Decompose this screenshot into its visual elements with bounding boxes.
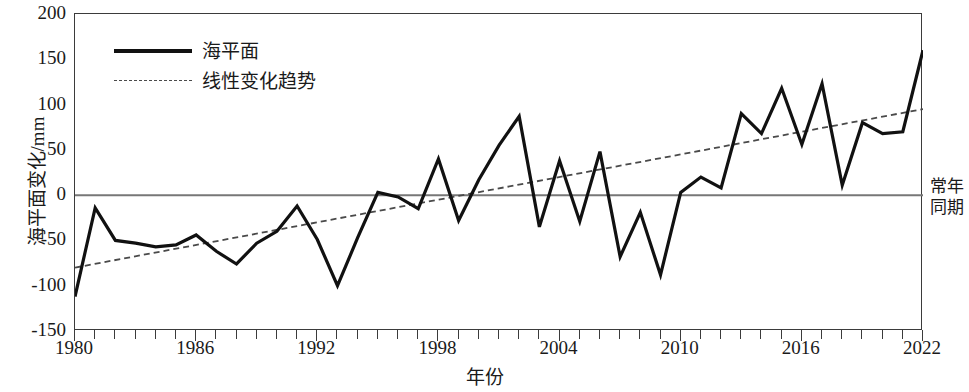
y-tick-label: -100 [8,275,66,294]
legend-item-sea-level: 海平面 [114,36,316,66]
solid-line-swatch-icon [114,44,192,58]
x-tick-label: 1980 [34,337,114,359]
legend: 海平面 线性变化趋势 [114,36,316,96]
x-tick-mark-minor [599,330,600,339]
x-tick-mark-minor [357,330,358,339]
x-tick-label: 1986 [155,337,235,359]
x-tick-label: 1992 [276,337,356,359]
y-tick-label: 0 [8,184,66,203]
legend-label-trend: 线性变化趋势 [202,72,316,91]
x-tick-mark-minor [135,330,136,339]
x-tick-mark-minor [236,330,237,339]
chart-container: 海平面变化/mm 年份 200150100500-50-100-150 1980… [0,0,969,392]
x-tick-label: 1998 [397,337,477,359]
x-tick-mark-minor [841,330,842,339]
x-tick-mark-minor [114,330,115,339]
trend-line [75,109,923,268]
y-tick-label: 100 [8,94,66,113]
legend-label-sea-level: 海平面 [202,42,259,61]
annotation-line-2: 同期 [930,197,964,218]
y-tick-label: 50 [8,139,66,158]
y-tick-label: 200 [8,3,66,22]
x-tick-label: 2004 [519,337,599,359]
y-tick-label: 150 [8,48,66,67]
dashed-line-swatch-icon [114,74,192,88]
x-tick-label: 2022 [882,337,962,359]
normal-period-annotation: 常年 同期 [930,176,964,218]
x-tick-mark-minor [256,330,257,339]
legend-item-trend: 线性变化趋势 [114,66,316,96]
x-axis-title: 年份 [0,362,969,389]
x-tick-mark-minor [498,330,499,339]
x-tick-mark-minor [861,330,862,339]
y-tick-label: -50 [8,229,66,248]
x-tick-mark-minor [720,330,721,339]
x-tick-mark-minor [619,330,620,339]
x-tick-mark-minor [740,330,741,339]
annotation-line-1: 常年 [930,176,964,197]
x-tick-label: 2010 [640,337,720,359]
x-tick-label: 2016 [761,337,841,359]
x-tick-mark-minor [478,330,479,339]
x-tick-mark-minor [377,330,378,339]
